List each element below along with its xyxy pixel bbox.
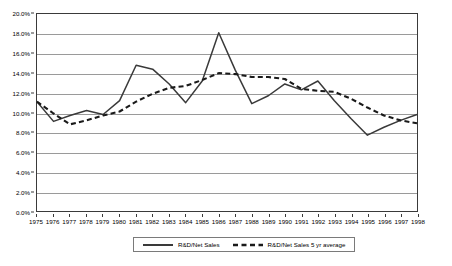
y-axis-tick-label: 18.0%	[12, 29, 30, 36]
y-axis-tick-label: 0.0%	[16, 209, 30, 216]
y-axis-tick-label: 2.0%	[16, 189, 30, 196]
y-axis-tick-mark	[31, 132, 34, 133]
x-axis-tick-mark	[69, 214, 70, 217]
chart-legend: R&D/Net SalesR&D/Net Sales 5 yr average	[133, 237, 355, 252]
legend-item: R&D/Net Sales	[143, 241, 220, 249]
x-axis-tick-mark	[335, 214, 336, 217]
y-axis-tick-mark	[31, 172, 34, 173]
x-axis-tick-mark	[418, 214, 419, 217]
x-axis-tick-label: 1987	[228, 218, 242, 226]
x-axis-tick-label: 1993	[328, 218, 342, 226]
x-axis-tick-mark	[385, 214, 386, 217]
y-axis-tick-mark	[31, 212, 34, 213]
x-axis-tick-label: 1980	[112, 218, 126, 226]
x-axis-tick-label: 1976	[46, 218, 60, 226]
x-axis-tick-mark	[86, 214, 87, 217]
x-axis-tick-label: 1977	[62, 218, 76, 226]
x-axis-tick-label: 1992	[311, 218, 325, 226]
x-axis-tick-mark	[401, 214, 402, 217]
legend-label: R&D/Net Sales	[178, 241, 220, 249]
legend-swatch-solid	[143, 241, 173, 249]
y-axis-tick-label: 4.0%	[16, 169, 30, 176]
x-axis-tick-mark	[152, 214, 153, 217]
x-axis-tick-label: 1996	[378, 218, 392, 226]
x-axis-tick-mark	[53, 214, 54, 217]
x-axis-tick-mark	[285, 214, 286, 217]
y-axis-tick-mark	[31, 32, 34, 33]
x-axis-tick-label: 1991	[295, 218, 309, 226]
y-axis-tick-mark	[31, 192, 34, 193]
x-axis-tick-label: 1997	[395, 218, 409, 226]
x-axis-tick-mark	[36, 214, 37, 217]
x-axis-tick-label: 1990	[278, 218, 292, 226]
series-line-dashed	[37, 73, 417, 124]
y-axis-tick-label: 8.0%	[16, 129, 30, 136]
x-axis-tick-label: 1982	[145, 218, 159, 226]
x-axis-tick-mark	[169, 214, 170, 217]
x-axis-tick-label: 1979	[96, 218, 110, 226]
series-line-solid	[37, 33, 417, 135]
x-axis-tick-label: 1986	[212, 218, 226, 226]
y-axis-tick-mark	[31, 52, 34, 53]
y-axis-tick-mark	[31, 92, 34, 93]
x-axis-tick-label: 1998	[411, 218, 425, 226]
y-axis: 0.0%2.0%4.0%6.0%8.0%10.0%12.0%14.0%16.0%…	[0, 13, 34, 212]
y-axis-tick-mark	[31, 152, 34, 153]
y-axis-tick-label: 6.0%	[16, 149, 30, 156]
x-axis-tick-mark	[318, 214, 319, 217]
x-axis-tick-mark	[252, 214, 253, 217]
x-axis-tick-label: 1978	[79, 218, 93, 226]
x-axis-tick-mark	[368, 214, 369, 217]
x-axis-tick-mark	[269, 214, 270, 217]
x-axis-tick-mark	[219, 214, 220, 217]
y-axis-tick-mark	[31, 13, 34, 14]
x-axis-tick-label: 1975	[29, 218, 43, 226]
y-axis-tick-label: 16.0%	[12, 49, 30, 56]
x-axis-tick-label: 1983	[162, 218, 176, 226]
y-axis-tick-label: 12.0%	[12, 89, 30, 96]
x-axis-tick-mark	[119, 214, 120, 217]
y-axis-tick-mark	[31, 72, 34, 73]
x-axis-tick-label: 1995	[361, 218, 375, 226]
x-axis-tick-label: 1981	[129, 218, 143, 226]
y-axis-tick-label: 14.0%	[12, 69, 30, 76]
legend-swatch-dashed	[233, 241, 263, 249]
chart-container: 0.0%2.0%4.0%6.0%8.0%10.0%12.0%14.0%16.0%…	[0, 0, 452, 266]
x-axis-tick-label: 1985	[195, 218, 209, 226]
x-axis-tick-mark	[202, 214, 203, 217]
x-axis-tick-mark	[185, 214, 186, 217]
x-axis-tick-label: 1984	[179, 218, 193, 226]
y-axis-tick-mark	[31, 112, 34, 113]
x-axis-tick-mark	[235, 214, 236, 217]
plot-area	[36, 13, 418, 212]
x-axis-tick-label: 1994	[345, 218, 359, 226]
x-axis-tick-mark	[136, 214, 137, 217]
x-axis: 1975197619771978197919801981198219831984…	[36, 214, 418, 228]
legend-label: R&D/Net Sales 5 yr average	[268, 241, 346, 249]
x-axis-tick-mark	[302, 214, 303, 217]
series-layer	[37, 14, 417, 211]
x-axis-tick-label: 1988	[245, 218, 259, 226]
y-axis-tick-label: 20.0%	[12, 10, 30, 17]
x-axis-tick-mark	[352, 214, 353, 217]
y-axis-tick-label: 10.0%	[12, 109, 30, 116]
legend-item: R&D/Net Sales 5 yr average	[233, 241, 346, 249]
x-axis-tick-label: 1989	[262, 218, 276, 226]
x-axis-tick-mark	[102, 214, 103, 217]
